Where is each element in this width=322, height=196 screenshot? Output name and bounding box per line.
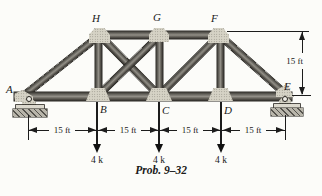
joint-label-b: B [100, 104, 107, 115]
rocker-support-ground-hatch [271, 108, 303, 116]
joint-label-f: F [211, 13, 218, 24]
dim-arrow-icon [161, 127, 169, 133]
load-arrowhead-c-icon [155, 144, 163, 153]
dim-arrow-icon [212, 127, 220, 133]
pin-icon [26, 96, 32, 102]
dim-label-span3: 15 ft [177, 125, 203, 135]
truss-figure: 4 k 4 k 4 k 15 ft 15 ft 15 ft 15 ft 15 f… [0, 0, 322, 196]
dim-arrow-icon [150, 127, 158, 133]
dim-arrow-icon [99, 127, 107, 133]
figure-caption: Prob. 9–32 [0, 164, 322, 176]
rocker-icon [282, 96, 288, 102]
dim-arrow-icon [299, 32, 305, 40]
dim-label-height: 15 ft [281, 56, 303, 66]
joint-label-h: H [92, 13, 100, 24]
joint-label-a: A [6, 84, 13, 95]
load-arrowhead-b-icon [93, 144, 101, 153]
dim-label-span2: 15 ft [115, 125, 141, 135]
pin-support-ground-hatch [13, 109, 47, 117]
dim-arrow-icon [29, 127, 37, 133]
dim-arrow-icon [223, 127, 231, 133]
gusset-d [208, 88, 233, 101]
height-extension-top [227, 31, 309, 32]
height-extension-bottom [292, 95, 311, 96]
load-arrow-b [96, 102, 98, 146]
load-arrow-c [158, 102, 160, 146]
dim-label-span1: 15 ft [49, 125, 75, 135]
dim-label-span4: 15 ft [240, 125, 266, 135]
joint-label-g: G [153, 12, 161, 23]
joint-label-e: E [284, 81, 291, 92]
dim-arrow-icon [299, 87, 305, 95]
joint-label-c: C [162, 105, 169, 116]
dim-arrow-icon [88, 127, 96, 133]
dim-arrow-icon [276, 127, 284, 133]
dim-extension-e [285, 115, 286, 140]
load-arrow-d [220, 102, 222, 146]
joint-label-d: D [224, 105, 232, 116]
load-arrowhead-d-icon [217, 144, 225, 153]
